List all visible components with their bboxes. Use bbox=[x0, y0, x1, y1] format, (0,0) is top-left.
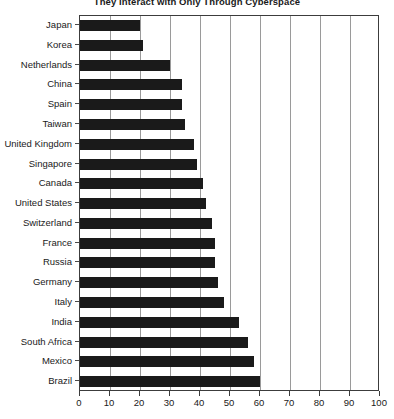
bar-row bbox=[80, 293, 378, 313]
x-axis-label: 90 bbox=[334, 397, 364, 408]
bar bbox=[80, 159, 197, 170]
x-axis-label: 40 bbox=[184, 397, 214, 408]
bar bbox=[80, 198, 206, 209]
y-axis-tick-group: Taiwan bbox=[0, 114, 79, 134]
y-axis-tick-group: China bbox=[0, 74, 79, 94]
plot-area bbox=[79, 15, 379, 391]
bar-row bbox=[80, 352, 378, 372]
bar bbox=[80, 79, 182, 90]
y-axis-label: United States bbox=[15, 193, 72, 213]
bar-row bbox=[80, 56, 378, 76]
x-axis-tick bbox=[349, 391, 350, 396]
bar bbox=[80, 119, 185, 130]
y-axis-label: Brazil bbox=[48, 371, 72, 391]
bar bbox=[80, 238, 215, 249]
y-axis-tick-group: Korea bbox=[0, 35, 79, 55]
bar-row bbox=[80, 36, 378, 56]
y-axis-tick-group: France bbox=[0, 233, 79, 253]
bar bbox=[80, 337, 248, 348]
bars bbox=[80, 16, 378, 390]
x-axis-label: 100 bbox=[364, 397, 394, 408]
y-axis-tick-group: Italy bbox=[0, 292, 79, 312]
bar bbox=[80, 297, 224, 308]
chart-title: They Interact with Only Through Cyberspa… bbox=[0, 0, 394, 8]
bar-row bbox=[80, 95, 378, 115]
y-axis-tick-group: Spain bbox=[0, 94, 79, 114]
x-axis-tick bbox=[259, 391, 260, 396]
y-axis-tick-group: Japan bbox=[0, 15, 79, 35]
x-axis: 0102030405060708090100 bbox=[79, 391, 379, 419]
bar-row bbox=[80, 333, 378, 353]
y-axis-label: Netherlands bbox=[21, 55, 72, 75]
bar bbox=[80, 99, 182, 110]
x-axis-tick bbox=[109, 391, 110, 396]
bar bbox=[80, 40, 143, 51]
y-axis-label: Japan bbox=[46, 15, 72, 35]
y-axis-label: Mexico bbox=[42, 351, 72, 371]
bar-row bbox=[80, 273, 378, 293]
bar-row bbox=[80, 115, 378, 135]
x-axis-label: 60 bbox=[244, 397, 274, 408]
bar-row bbox=[80, 75, 378, 95]
y-axis-label: Germany bbox=[33, 272, 72, 292]
y-axis-tick-group: India bbox=[0, 312, 79, 332]
bar bbox=[80, 178, 203, 189]
y-axis-tick-group: United Kingdom bbox=[0, 134, 79, 154]
bar-row bbox=[80, 234, 378, 254]
bar bbox=[80, 139, 194, 150]
bar bbox=[80, 317, 239, 328]
bar-row bbox=[80, 155, 378, 175]
bar bbox=[80, 356, 254, 367]
y-axis-tick-group: Switzerland bbox=[0, 213, 79, 233]
x-axis-tick bbox=[139, 391, 140, 396]
bar-row bbox=[80, 313, 378, 333]
x-axis-tick bbox=[79, 391, 80, 396]
x-axis-label: 0 bbox=[64, 397, 94, 408]
bar-row bbox=[80, 174, 378, 194]
x-axis-tick bbox=[289, 391, 290, 396]
y-axis-label: India bbox=[51, 312, 72, 332]
y-axis-label: China bbox=[47, 74, 72, 94]
y-axis-label: South Africa bbox=[21, 332, 72, 352]
y-axis-label: Korea bbox=[47, 35, 72, 55]
y-axis-tick-group: Mexico bbox=[0, 351, 79, 371]
y-axis-label: Canada bbox=[39, 173, 72, 193]
bar-row bbox=[80, 135, 378, 155]
bar bbox=[80, 376, 260, 387]
y-axis-tick-group: Canada bbox=[0, 173, 79, 193]
y-axis-tick-group: Brazil bbox=[0, 371, 79, 391]
y-axis-tick-group: Germany bbox=[0, 272, 79, 292]
x-axis-label: 30 bbox=[154, 397, 184, 408]
bar-row bbox=[80, 194, 378, 214]
y-axis-label: Switzerland bbox=[23, 213, 72, 233]
x-axis-tick bbox=[199, 391, 200, 396]
y-axis-label: Italy bbox=[55, 292, 72, 312]
bar-row bbox=[80, 372, 378, 392]
x-axis-tick bbox=[229, 391, 230, 396]
x-axis-label: 80 bbox=[304, 397, 334, 408]
bar bbox=[80, 218, 212, 229]
y-axis-label: Spain bbox=[48, 94, 72, 114]
bar bbox=[80, 20, 140, 31]
x-axis-label: 70 bbox=[274, 397, 304, 408]
bar bbox=[80, 257, 215, 268]
bar bbox=[80, 277, 218, 288]
y-axis-label: France bbox=[42, 233, 72, 253]
x-axis-label: 50 bbox=[214, 397, 244, 408]
x-axis-label: 10 bbox=[94, 397, 124, 408]
y-axis-tick-group: United States bbox=[0, 193, 79, 213]
x-axis-tick bbox=[169, 391, 170, 396]
y-axis-tick-group: Netherlands bbox=[0, 55, 79, 75]
y-axis-label: Singapore bbox=[29, 154, 72, 174]
bar-row bbox=[80, 253, 378, 273]
x-axis-label: 20 bbox=[124, 397, 154, 408]
bar-chart: They Interact with Only Through Cyberspa… bbox=[0, 0, 394, 419]
bar bbox=[80, 60, 170, 71]
bar-row bbox=[80, 16, 378, 36]
x-axis-tick bbox=[379, 391, 380, 396]
y-axis-label: Taiwan bbox=[42, 114, 72, 134]
y-axis-tick-group: South Africa bbox=[0, 332, 79, 352]
y-axis: JapanKoreaNetherlandsChinaSpainTaiwanUni… bbox=[0, 15, 79, 391]
y-axis-tick-group: Singapore bbox=[0, 154, 79, 174]
y-axis-label: United Kingdom bbox=[4, 134, 72, 154]
